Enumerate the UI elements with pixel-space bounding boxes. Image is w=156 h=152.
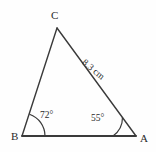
angle-label-b: 72° bbox=[40, 111, 53, 121]
angle-label-a: 55° bbox=[91, 114, 104, 124]
triangle-svg bbox=[0, 0, 156, 152]
vertex-label-a: A bbox=[140, 133, 148, 144]
triangle-diagram: C B A 72° 55° 8.3 cm bbox=[0, 0, 156, 152]
vertex-label-c: C bbox=[51, 10, 59, 21]
angle-arc-a bbox=[113, 117, 123, 136]
vertex-label-b: B bbox=[11, 131, 19, 142]
